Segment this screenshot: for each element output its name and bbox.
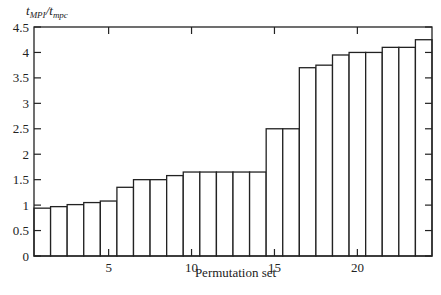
bar-11 xyxy=(200,172,217,256)
bar-13 xyxy=(233,172,250,256)
bar-19 xyxy=(333,55,350,256)
bars xyxy=(34,40,432,256)
bar-chart-plot: 00.511.522.533.544.55101520 xyxy=(0,0,441,295)
bar-14 xyxy=(250,172,267,256)
y-tick-label: 1.5 xyxy=(13,172,29,187)
x-axis-title: Permutation set xyxy=(0,265,441,281)
y-tick-label: 3 xyxy=(23,96,30,111)
bar-17 xyxy=(299,68,316,256)
bar-20 xyxy=(349,52,366,256)
bar-24 xyxy=(415,40,432,256)
bar-7 xyxy=(134,180,151,256)
bar-18 xyxy=(316,65,333,256)
bar-10 xyxy=(183,172,200,256)
bar-23 xyxy=(399,47,416,256)
bar-6 xyxy=(117,187,134,256)
y-tick-label: 4.5 xyxy=(13,20,29,35)
bar-15 xyxy=(266,129,283,256)
bar-9 xyxy=(167,176,184,256)
y-tick-label: 4 xyxy=(23,45,30,60)
bar-3 xyxy=(67,205,84,256)
bar-12 xyxy=(216,172,233,256)
bar-21 xyxy=(366,52,383,256)
bar-2 xyxy=(51,207,68,256)
bar-8 xyxy=(150,180,167,256)
y-tick-label: 0.5 xyxy=(13,223,29,238)
y-tick-label: 3.5 xyxy=(13,70,29,85)
y-tick-label: 2 xyxy=(23,147,30,162)
bar-1 xyxy=(34,208,51,256)
y-tick-label: 2.5 xyxy=(13,121,29,136)
bar-22 xyxy=(382,47,399,256)
y-tick-label: 0 xyxy=(23,249,30,264)
bar-16 xyxy=(283,129,300,256)
y-tick-label: 1 xyxy=(23,198,30,213)
bar-5 xyxy=(100,201,117,256)
bar-4 xyxy=(84,203,101,256)
